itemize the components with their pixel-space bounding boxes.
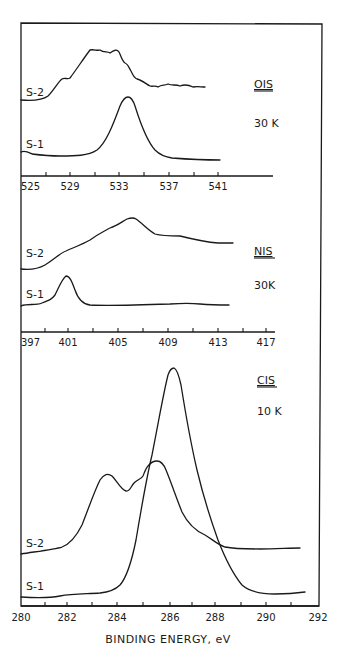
- n1s-s1-label: S-1: [26, 288, 44, 301]
- o1s-temperature-label: 30 K: [254, 117, 279, 130]
- o1s-tick-537: 537: [159, 181, 178, 192]
- o1s-tick-533: 533: [109, 181, 128, 192]
- o1s-s1-label: S-1: [26, 138, 44, 151]
- o1s-tick-541: 541: [208, 181, 227, 192]
- n1s-tick-417: 417: [256, 337, 275, 348]
- n1s-tick-405: 405: [108, 337, 127, 348]
- x-axis-label: BINDING ENERGY, eV: [105, 633, 231, 646]
- n1s-tick-409: 409: [158, 337, 177, 348]
- n1s-panel: S-2 S-1 NIS 30K 397 401 405 409 413 417: [21, 218, 276, 348]
- c1s-s2-curve: [21, 461, 300, 554]
- o1s-s1-curve: [21, 97, 220, 160]
- n1s-s2-curve: [21, 218, 233, 270]
- c1s-panel: S-2 S-1 CIS 10 K 280 282 284 286 288 290…: [11, 368, 327, 646]
- c1s-tick-286: 286: [160, 612, 179, 623]
- c1s-tick-290: 290: [256, 612, 275, 623]
- c1s-s1-curve: [21, 368, 305, 598]
- n1s-tick-413: 413: [208, 337, 227, 348]
- o1s-s2-label: S-2: [26, 86, 44, 99]
- figure-frame: [21, 23, 322, 606]
- c1s-s2-label: S-2: [26, 537, 44, 550]
- n1s-tick-401: 401: [58, 337, 77, 348]
- n1s-tick-397: 397: [21, 337, 40, 348]
- xps-spectra-figure: S-2 S-1 OIS 30 K 525 529 533 537 541 S-2…: [0, 0, 344, 665]
- c1s-temperature-label: 10 K: [257, 405, 282, 418]
- o1s-tick-529: 529: [60, 181, 79, 192]
- c1s-tick-284: 284: [107, 612, 126, 623]
- n1s-s1-curve: [21, 276, 229, 306]
- n1s-panel-title: NIS: [254, 245, 272, 258]
- o1s-s2-curve: [21, 50, 205, 101]
- c1s-tick-280: 280: [11, 612, 30, 623]
- o1s-tick-525: 525: [21, 181, 40, 192]
- o1s-panel-title: OIS: [254, 78, 273, 91]
- c1s-tick-282: 282: [57, 612, 76, 623]
- n1s-temperature-label: 30K: [254, 279, 276, 292]
- c1s-tick-288: 288: [205, 612, 224, 623]
- c1s-panel-title: CIS: [257, 374, 275, 387]
- o1s-panel: S-2 S-1 OIS 30 K 525 529 533 537 541: [21, 50, 279, 192]
- c1s-s1-label: S-1: [26, 580, 44, 593]
- c1s-tick-292: 292: [308, 612, 327, 623]
- n1s-s2-label: S-2: [26, 247, 44, 260]
